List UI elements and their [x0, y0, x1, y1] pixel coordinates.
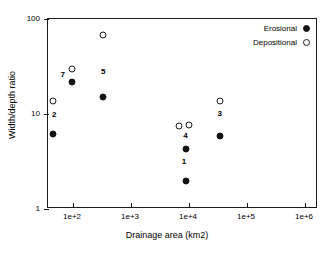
x-axis-tick-label: 1e+3	[121, 212, 139, 221]
scatter-chart-figure: 275413 ErosionalDepositional Drainage ar…	[0, 0, 334, 254]
x-axis-tick-label: 1e+5	[237, 212, 255, 221]
data-point-depositional-1	[175, 123, 182, 130]
data-point-depositional-7	[68, 65, 75, 72]
x-axis-tick-label: 1e+4	[179, 212, 197, 221]
x-axis-tick	[73, 203, 74, 208]
point-annotation-3: 3	[217, 110, 221, 118]
point-annotation-4: 4	[183, 132, 187, 140]
y-axis-tick-label: 100	[27, 14, 40, 23]
x-axis-tick	[189, 203, 190, 208]
y-axis-tick	[44, 114, 49, 115]
y-axis-title: Width/depth ratio	[7, 30, 17, 180]
data-point-erosional-5	[100, 94, 107, 101]
filled-circle-icon	[303, 25, 310, 32]
legend-label: Erosional	[264, 24, 297, 33]
plot-area: 275413	[48, 19, 316, 207]
data-point-depositional-5	[100, 31, 107, 38]
x-axis-tick-label: 1e+6	[295, 212, 313, 221]
point-annotation-2: 2	[52, 111, 56, 119]
x-axis-tick	[305, 203, 306, 208]
x-axis-tick	[131, 203, 132, 208]
open-circle-icon	[303, 39, 310, 46]
data-point-erosional-7	[68, 79, 75, 86]
y-axis-tick	[44, 209, 49, 210]
point-annotation-7: 7	[61, 71, 65, 79]
data-point-erosional-4	[183, 145, 190, 152]
point-annotation-1: 1	[182, 158, 186, 166]
x-axis-title: Drainage area (km2)	[0, 230, 334, 240]
data-point-erosional-3	[216, 132, 223, 139]
legend-item-depositional[interactable]: Depositional	[253, 38, 310, 47]
data-point-depositional-2	[50, 98, 57, 105]
data-point-erosional-1	[182, 178, 189, 185]
chart-legend: ErosionalDepositional	[253, 24, 310, 47]
x-axis-tick-label: 1e+2	[63, 212, 81, 221]
data-point-depositional-3	[216, 98, 223, 105]
y-axis-tick-label: 1	[36, 204, 40, 213]
plot-frame: 275413 ErosionalDepositional	[47, 18, 317, 208]
y-axis-tick-label: 10	[31, 109, 40, 118]
point-annotation-5: 5	[101, 68, 105, 76]
legend-label: Depositional	[253, 38, 297, 47]
data-point-depositional-4	[185, 121, 192, 128]
x-axis-tick	[247, 203, 248, 208]
legend-item-erosional[interactable]: Erosional	[264, 24, 310, 33]
data-point-erosional-2	[50, 131, 57, 138]
y-axis-tick	[44, 19, 49, 20]
